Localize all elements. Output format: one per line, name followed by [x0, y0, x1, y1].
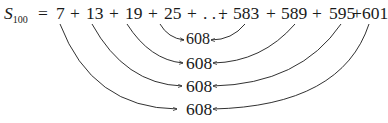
arrow-25 [160, 24, 184, 40]
arrow-19 [127, 24, 183, 63]
arrow-13 [92, 24, 182, 86]
arrow-583 [211, 24, 245, 40]
arrow-601 [213, 24, 369, 109]
arrow-7 [60, 24, 177, 109]
arrow-595 [213, 24, 341, 86]
arrow-589 [213, 24, 295, 63]
